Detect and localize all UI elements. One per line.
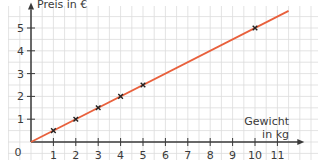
price-weight-chart: 1234567891011123450Preis in €Gewichtin k… (0, 0, 323, 167)
x-axis-label-line1: Gewicht (244, 115, 289, 128)
x-tick-label: 2 (72, 149, 79, 162)
x-tick-label: 3 (95, 149, 102, 162)
x-tick-label: 1 (50, 149, 57, 162)
x-axis-arrow-icon (297, 139, 304, 145)
x-tick-label: 8 (207, 149, 214, 162)
y-axis-arrow-icon (28, 2, 34, 9)
x-tick-label: 4 (117, 149, 124, 162)
x-axis-label-line2: in kg (262, 128, 289, 141)
x-tick-label: 11 (270, 149, 284, 162)
x-tick-label: 6 (162, 149, 169, 162)
x-tick-label: 5 (140, 149, 147, 162)
origin-label: 0 (15, 146, 22, 159)
y-tick-label: 2 (17, 90, 24, 103)
x-tick-label: 7 (184, 149, 191, 162)
y-tick-label: 1 (17, 113, 24, 126)
y-axis-label: Preis in € (37, 0, 87, 11)
y-tick-label: 3 (17, 68, 24, 81)
y-tick-label: 4 (17, 45, 24, 58)
x-tick-label: 10 (248, 149, 262, 162)
x-tick-label: 9 (229, 149, 236, 162)
y-tick-label: 5 (17, 22, 24, 35)
chart-root: 1234567891011123450Preis in €Gewichtin k… (0, 0, 323, 167)
